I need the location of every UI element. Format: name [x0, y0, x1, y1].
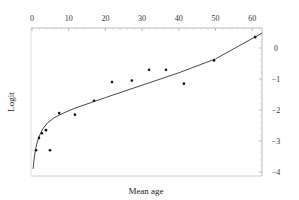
- data-point: [93, 99, 96, 102]
- data-point: [213, 59, 216, 62]
- data-point: [165, 68, 168, 71]
- fitted-curve-path: [33, 33, 262, 169]
- data-point: [131, 79, 134, 82]
- data-point: [45, 129, 48, 132]
- x-tick-label: 30: [138, 14, 146, 23]
- chart: 0102030405060 0−1−2−3−4 Mean age Logit: [0, 0, 299, 200]
- x-tick-label: 10: [65, 14, 73, 23]
- y-axis-label: Logit: [6, 92, 16, 112]
- y-tick-label: −1: [272, 75, 281, 84]
- data-point: [35, 149, 38, 152]
- data-point: [41, 132, 44, 135]
- y-tick-label: −2: [272, 106, 281, 115]
- data-point: [254, 36, 257, 39]
- plot-frame: [31, 28, 262, 176]
- data-point: [148, 68, 151, 71]
- x-tick-label: 20: [101, 14, 109, 23]
- data-point: [183, 82, 186, 85]
- data-point: [74, 113, 77, 116]
- data-point: [38, 137, 41, 140]
- x-tick-label: 60: [248, 14, 256, 23]
- y-tick-label: −4: [272, 168, 281, 177]
- x-tick-label: 40: [175, 14, 183, 23]
- x-tick-label: 50: [212, 14, 220, 23]
- x-tick-label: 0: [30, 14, 34, 23]
- data-point: [58, 112, 61, 115]
- data-points: [35, 36, 257, 152]
- y-tick-label: 0: [274, 44, 278, 53]
- x-axis-label: Mean age: [128, 186, 163, 196]
- y-tick-label: −3: [272, 137, 281, 146]
- fitted-curve: [33, 33, 262, 169]
- data-point: [111, 81, 114, 84]
- data-point: [49, 149, 52, 152]
